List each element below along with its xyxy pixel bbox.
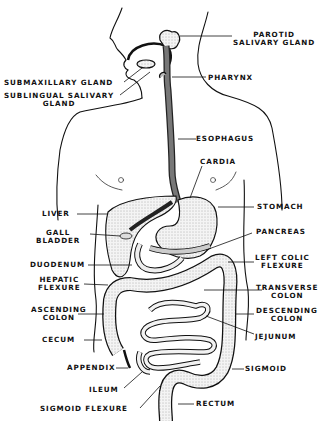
label-line: SALIVARY GLAND — [233, 39, 315, 47]
gall-bladder-shape — [120, 233, 132, 239]
label-sigmoid: SIGMOID — [245, 365, 287, 373]
torso-left-outline — [94, 205, 98, 352]
label-pancreas: PANCREAS — [256, 228, 306, 236]
label-hepatic-flexure: HEPATIC FLEXURE — [38, 276, 81, 292]
label-jejunum: JEJUNUM — [255, 333, 296, 341]
submaxillary-gland-shape — [137, 60, 155, 68]
label-submaxillary-gland: SUBMAXILLARY GLAND — [4, 79, 113, 87]
head-profile-outline — [110, 8, 142, 98]
label-cecum: CECUM — [42, 336, 75, 344]
label-pharynx: PHARYNX — [208, 74, 253, 82]
label-ascending-colon: ASCENDING COLON — [31, 306, 87, 322]
appendix-shape — [124, 350, 130, 368]
label-line: COLON — [256, 315, 318, 323]
label-esophagus: ESOPHAGUS — [196, 135, 254, 143]
label-parotid-salivary-gland: PAROTID SALIVARY GLAND — [233, 31, 315, 47]
label-cardia: CARDIA — [200, 158, 236, 166]
label-sigmoid-flexure: SIGMOID FLEXURE — [40, 405, 128, 413]
label-liver: LIVER — [42, 210, 70, 218]
label-transverse-colon: TRANSVERSE COLON — [256, 284, 318, 300]
label-gall-bladder: GALL BLADDER — [36, 229, 80, 245]
label-duodenum: DUODENUM — [30, 261, 85, 269]
label-ileum: ILEUM — [89, 386, 119, 394]
label-line: GLAND — [4, 100, 114, 108]
label-line: BLADDER — [36, 237, 80, 245]
label-stomach: STOMACH — [257, 203, 304, 211]
torso-right-outline — [244, 180, 249, 340]
label-rectum: RECTUM — [196, 400, 235, 408]
label-line: FLEXURE — [255, 262, 310, 270]
label-line: COLON — [256, 292, 318, 300]
label-line: FLEXURE — [38, 284, 81, 292]
label-line: COLON — [31, 314, 87, 322]
label-descending-colon: DESCENDING COLON — [256, 307, 318, 323]
label-sublingual-salivary-gland: SUBLINGUAL SALIVARY GLAND — [4, 92, 114, 108]
label-appendix: APPENDIX — [67, 364, 115, 372]
label-left-colic-flexure: LEFT COLIC FLEXURE — [255, 254, 310, 270]
